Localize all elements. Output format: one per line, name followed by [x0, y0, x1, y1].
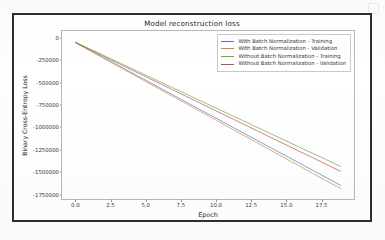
y-tick-label: -250000: [36, 57, 59, 63]
x-tick-label: 12.5: [245, 202, 257, 208]
legend-item-label: With Batch Normalization - Training: [238, 38, 332, 46]
y-axis-label: Binary Cross-Entropy Loss: [19, 30, 29, 200]
legend-item[interactable]: Without Batch Normalization - Validation: [221, 60, 346, 68]
x-tick-label: 2.5: [106, 202, 115, 208]
x-tick-mark: [322, 199, 323, 202]
y-tick-label: -1500000: [33, 169, 59, 175]
legend-color-swatch: [221, 41, 234, 42]
x-tick-label: 10.0: [210, 202, 222, 208]
y-tick-label: -1000000: [33, 124, 59, 130]
x-tick-mark: [251, 199, 252, 202]
y-tick-label: -500000: [36, 80, 59, 86]
x-tick-label: 7.5: [177, 202, 186, 208]
x-tick-label: 17.5: [316, 202, 328, 208]
x-tick-mark: [216, 199, 217, 202]
chart-title: Model reconstruction loss: [14, 19, 370, 28]
x-tick-mark: [75, 199, 76, 202]
legend-item-label: With Batch Normalization - Validation: [238, 45, 337, 53]
y-tick-label: -1250000: [33, 147, 59, 153]
plot-area: 0-250000-500000-750000-1000000-1250000-1…: [61, 30, 355, 200]
y-tick-mark: [60, 194, 63, 195]
x-tick-label: 15.0: [280, 202, 292, 208]
legend-item[interactable]: Without Batch Normalization - Training: [221, 53, 346, 61]
legend-item-label: Without Batch Normalization - Validation: [238, 60, 346, 68]
x-axis-label: Epoch: [61, 211, 355, 219]
x-tick-mark: [181, 199, 182, 202]
y-tick-mark: [60, 60, 63, 61]
x-tick-mark: [286, 199, 287, 202]
y-tick-label: 0: [56, 35, 59, 41]
legend-color-swatch: [221, 64, 234, 65]
y-tick-mark: [60, 105, 63, 106]
y-axis-label-text: Binary Cross-Entropy Loss: [21, 75, 28, 156]
legend-item[interactable]: With Batch Normalization - Validation: [221, 45, 346, 53]
y-tick-mark: [60, 149, 63, 150]
legend-item-label: Without Batch Normalization - Training: [238, 53, 340, 61]
x-tick-label: 5.0: [141, 202, 150, 208]
legend-color-swatch: [221, 48, 234, 49]
chart-figure: Model reconstruction loss Binary Cross-E…: [14, 15, 370, 220]
y-tick-mark: [60, 82, 63, 83]
x-tick-mark: [146, 199, 147, 202]
y-tick-label: -1750000: [33, 192, 59, 198]
y-tick-mark: [60, 127, 63, 128]
legend-item[interactable]: With Batch Normalization - Training: [221, 38, 346, 46]
legend-color-swatch: [221, 56, 234, 57]
y-tick-label: -750000: [36, 102, 59, 108]
x-tick-label: 0.0: [71, 202, 80, 208]
y-tick-mark: [60, 172, 63, 173]
x-tick-mark: [111, 199, 112, 202]
scan-page: Model reconstruction loss Binary Cross-E…: [0, 0, 385, 240]
chart-legend: With Batch Normalization - TrainingWith …: [217, 34, 351, 72]
figure-frame: Model reconstruction loss Binary Cross-E…: [12, 13, 372, 222]
y-tick-mark: [60, 37, 63, 38]
